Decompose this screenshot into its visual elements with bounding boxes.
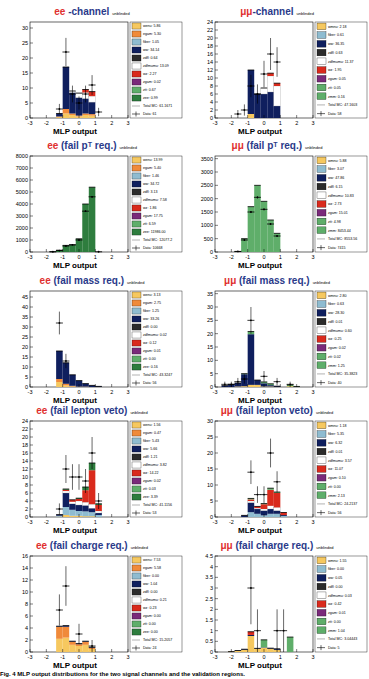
x-axis-label: MLP output	[205, 526, 315, 535]
legend-entry: wmnu: 2.80	[317, 292, 347, 299]
y-tick-label: 2	[25, 506, 28, 512]
y-tick-label: 0	[25, 514, 28, 520]
legend-label: zgam: 0.00	[143, 614, 161, 618]
bar-ww	[248, 334, 255, 385]
bar-zdfmumu	[254, 508, 261, 509]
title-text: -channel	[252, 6, 293, 17]
chart-panel: μμ (fail lepton veto)unblinded-3-2-10123…	[185, 405, 369, 535]
legend-label: zdfl: 0.64	[143, 56, 158, 60]
title-channel: μμ	[220, 540, 232, 551]
bar-fiber	[274, 514, 281, 517]
y-tick-label: 10	[207, 482, 213, 488]
legend-entry: ww: 33.26	[132, 316, 159, 322]
legend-label: zgam: 17.75	[143, 214, 163, 218]
x-tick-label: 0	[77, 254, 80, 260]
title-channel: ee	[40, 275, 51, 286]
x-tick-label: 1	[94, 654, 97, 660]
legend-label: Total MC: 47.1603	[328, 103, 357, 107]
x-tick-label: -3	[28, 254, 33, 260]
y-tick-label: 1.5	[205, 617, 213, 623]
bar-wenu	[56, 117, 63, 118]
legend-label: ztt: 0.00	[328, 620, 341, 624]
plot-frame	[215, 556, 313, 652]
bar-egam	[89, 114, 96, 116]
x-tick-label: 0	[262, 254, 265, 260]
y-tick-label: 10	[207, 357, 213, 363]
x-tick-label: 2	[110, 120, 113, 126]
legend-entry: wenu: 3.13	[132, 292, 161, 298]
legend-label: ztt: 0.02	[328, 355, 341, 359]
legend-entry: fiber: 1.46	[132, 173, 159, 179]
unblinded-label: unblinded	[316, 410, 333, 415]
legend-entry: wz: 11.07	[317, 466, 343, 473]
chart-panel: μμ-channelunblinded-3-2-1012302468101214…	[185, 6, 369, 136]
bar-zdfmumu	[261, 88, 268, 94]
bar-wz	[248, 499, 255, 501]
legend-label: egam: 5.30	[143, 32, 161, 36]
y-tick-label: 14	[22, 458, 28, 464]
bar-wenu	[69, 115, 76, 118]
legend-label: wenu: 5.86	[143, 24, 161, 28]
bar-wenu	[82, 516, 89, 517]
legend-entry: zdfl: 0.00	[132, 324, 158, 330]
y-tick-label: 8	[25, 482, 28, 488]
legend-entry: wz: 1.95	[317, 67, 341, 74]
title-text: (fail charge req.)	[47, 540, 128, 551]
x-tick-label: -2	[229, 389, 234, 395]
legend-entry: ztt: 0.02	[317, 353, 341, 360]
legend-label: ww: 34.72	[143, 182, 159, 186]
y-tick-label: 14	[22, 565, 28, 571]
bar-zdfmumu	[267, 76, 274, 92]
legend-label: zgam: 0.01	[328, 611, 346, 615]
x-tick-label: 0	[262, 120, 265, 126]
legend-label: zmm: 0.16	[328, 95, 345, 99]
title-text: (fail pᵀ req.)	[244, 140, 302, 151]
title-channel: ee	[36, 540, 47, 551]
legend-label: zgam: 15.01	[328, 211, 348, 215]
bar-ww	[89, 508, 96, 512]
legend-label: zdfl: 0.01	[328, 320, 343, 324]
y-tick-label: 1500	[201, 209, 213, 215]
legend-entry: zdfl: 0.00	[317, 583, 343, 590]
y-tick-label: 16	[22, 450, 28, 456]
bar-ww	[280, 515, 287, 516]
y-tick-label: 30	[207, 418, 213, 424]
legend-label: wz: 2.73	[328, 202, 341, 206]
x-tick-label: 2	[295, 519, 298, 525]
legend-entry: wz: 0.42	[317, 601, 341, 608]
x-tick-label: 2	[295, 654, 298, 660]
x-axis-label: MLP output	[205, 127, 315, 136]
x-tick-label: 1	[94, 254, 97, 260]
legend-label: zdfl: 6.15	[328, 185, 343, 189]
chart-title: μμ (fail pᵀ req.)unblinded	[185, 140, 369, 151]
bar-fiber	[267, 514, 274, 517]
unblinded-label: unblinded	[127, 280, 144, 285]
x-axis-label: MLP output	[20, 526, 130, 535]
x-tick-label: 3	[311, 519, 314, 525]
legend-label: wz: 2.27	[143, 72, 156, 76]
bar-egam	[56, 627, 63, 639]
legend-label: zdfmumu: 11.37	[328, 60, 354, 64]
bar-wenu	[82, 115, 89, 118]
legend-label: fiber: 0.61	[328, 33, 344, 37]
histogram-plot: -3-2-1012305101520253035wmnu: 2.80fiber:…	[185, 287, 369, 395]
legend-entry: zmm: 1.25	[317, 362, 345, 369]
histogram-plot: -3-2-10123051015202530wmnu: 1.18fiber: 5…	[185, 417, 369, 525]
y-tick-label: 8000	[16, 153, 28, 159]
chart-panel: μμ (fail charge req.)unblinded-3-2-10123…	[185, 540, 369, 670]
legend-entry: zdfl: 1.21	[132, 454, 158, 460]
legend-label: Data: 7415	[328, 246, 346, 250]
unblinded-label: unblinded	[120, 145, 137, 150]
bar-ww	[82, 384, 89, 387]
x-tick-label: -2	[229, 254, 234, 260]
y-tick-label: 16	[207, 51, 213, 57]
legend-entry: zdfl: 0.00	[132, 589, 158, 595]
legend-label: zgam: 0.10	[328, 476, 346, 480]
title-text: -channel	[65, 6, 109, 17]
legend-label: ztt: 0.67	[143, 88, 156, 92]
x-tick-label: -2	[229, 519, 234, 525]
y-tick-label: 2	[210, 107, 213, 113]
bar-fiber	[69, 510, 76, 516]
title-text: (fail charge req.)	[233, 540, 314, 551]
legend-entry: zee: 3.39	[132, 494, 158, 500]
